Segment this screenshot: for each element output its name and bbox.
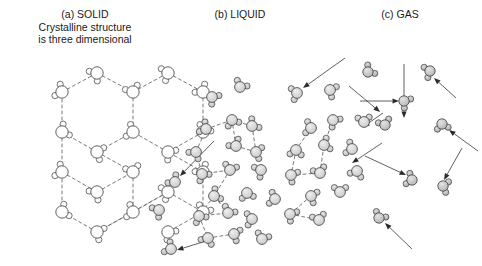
water-molecule	[434, 119, 451, 132]
water-molecule	[162, 146, 179, 163]
oxygen-atom	[203, 233, 214, 244]
oxygen-atom	[315, 168, 326, 179]
panel-caption-solid: (a) SOLID Crystalline structure is three…	[20, 8, 150, 46]
motion-arrow-head	[399, 170, 406, 175]
water-molecule	[165, 172, 181, 188]
water-molecule	[266, 189, 280, 206]
motion-arrow-shaft	[349, 86, 375, 108]
water-molecule	[286, 169, 301, 185]
oxygen-atom	[91, 67, 103, 79]
motion-arrow-shaft	[454, 134, 478, 151]
water-molecule	[161, 239, 176, 255]
motion-arrow-head	[401, 112, 406, 119]
water-molecule	[86, 67, 103, 84]
water-molecule	[123, 121, 139, 139]
water-molecule	[91, 225, 107, 242]
water-molecule	[309, 211, 326, 225]
oxygen-atom	[231, 141, 242, 152]
oxygen-atom	[352, 166, 363, 177]
water-molecule	[91, 145, 107, 163]
panel-caption-liquid: (b) LIQUID	[190, 8, 290, 21]
water-molecule	[247, 116, 262, 132]
oxygen-atom	[162, 67, 174, 79]
water-molecule	[347, 166, 364, 181]
water-molecule	[52, 81, 68, 98]
oxygen-atom	[363, 67, 373, 77]
oxygen-atom	[91, 186, 103, 198]
motion-arrow-shaft	[439, 82, 456, 98]
oxygen-atom	[201, 124, 212, 135]
oxygen-atom	[328, 115, 339, 126]
oxygen-atom	[319, 140, 330, 151]
oxygen-atom	[225, 165, 236, 176]
oxygen-atom	[325, 85, 336, 96]
oxygen-atom	[437, 119, 447, 129]
water-molecule	[288, 86, 302, 103]
oxygen-atom	[229, 229, 240, 240]
oxygen-atom	[91, 146, 103, 158]
states-of-matter-figure: (a) SOLID Crystalline structure is three…	[0, 0, 482, 266]
water-molecule	[251, 145, 265, 162]
water-molecule	[222, 203, 238, 218]
oxygen-atom	[209, 191, 220, 202]
oxygen-atom	[374, 213, 384, 223]
oxygen-atom	[314, 215, 325, 226]
oxygen-atom	[56, 206, 68, 218]
water-molecule	[223, 161, 240, 175]
oxygen-atom	[162, 186, 174, 198]
water-molecule	[421, 64, 435, 80]
oxygen-atom	[227, 115, 238, 126]
water-molecule	[251, 164, 266, 180]
oxygen-atom	[127, 166, 139, 178]
oxygen-atom	[399, 96, 409, 106]
water-molecule	[306, 189, 321, 206]
oxygen-atom	[251, 147, 262, 158]
water-molecule	[255, 230, 272, 245]
oxygen-atom	[162, 226, 174, 238]
oxygen-atom	[257, 234, 268, 245]
oxygen-atom	[270, 194, 281, 205]
oxygen-atom	[306, 123, 317, 134]
oxygen-atom	[207, 92, 218, 103]
oxygen-atom	[127, 86, 139, 98]
oxygen-atom	[286, 170, 297, 181]
water-molecule	[158, 185, 174, 203]
water-molecule	[149, 205, 164, 221]
water-molecule	[285, 209, 300, 225]
oxygen-atom	[359, 117, 370, 128]
water-molecule	[239, 188, 256, 202]
oxygen-atom	[162, 146, 174, 158]
water-molecule	[207, 92, 222, 108]
water-molecule	[319, 135, 334, 152]
oxygen-atom	[380, 120, 390, 130]
oxygen-atom	[56, 126, 68, 138]
oxygen-atom	[291, 145, 302, 156]
motion-arrow-head	[393, 98, 400, 103]
water-molecule	[438, 179, 452, 196]
water-molecule	[198, 233, 214, 248]
water-molecule	[303, 119, 317, 136]
oxygen-atom	[197, 169, 208, 180]
water-molecule	[56, 121, 73, 138]
oxygen-atom	[242, 188, 253, 199]
motion-arrow-shaft	[357, 143, 382, 159]
water-molecule	[197, 169, 213, 184]
oxygen-atom	[235, 82, 246, 93]
oxygen-atom	[166, 244, 177, 255]
water-molecule	[158, 66, 174, 84]
motion-arrow-shaft	[390, 228, 412, 249]
oxygen-atom	[247, 214, 258, 225]
oxygen-atom	[127, 126, 139, 138]
water-molecule	[56, 201, 72, 218]
oxygen-atom	[223, 208, 234, 219]
oxygen-atom	[292, 88, 303, 99]
water-molecule	[363, 62, 378, 77]
oxygen-atom	[91, 226, 103, 238]
water-molecule	[287, 145, 304, 158]
water-molecule	[310, 164, 327, 179]
water-molecule	[52, 161, 68, 178]
motion-arrow-head	[373, 106, 380, 112]
motion-arrow-head	[303, 82, 310, 88]
oxygen-atom	[425, 66, 435, 76]
water-molecule	[122, 82, 140, 98]
